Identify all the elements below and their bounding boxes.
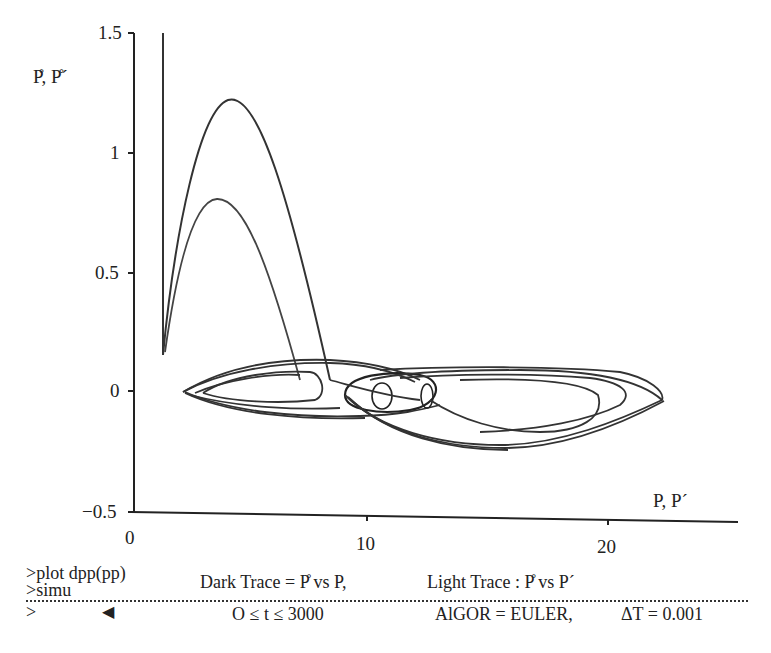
x-axis-label: P, P´	[653, 490, 688, 512]
dark-trace-legend: Dark Trace = P̊ vs P,	[200, 572, 347, 593]
x-tick-10: 10	[356, 533, 375, 555]
time-range: O ≤ t ≤ 3000	[232, 604, 324, 625]
console-prompt[interactable]: >	[26, 603, 36, 621]
arrow-left-icon[interactable]: ◀	[102, 603, 114, 621]
y-tick-0.5: 0.5	[95, 262, 119, 284]
dark-trace	[163, 33, 330, 380]
delta-t-label: ΔT = 0.001	[621, 604, 703, 625]
phase-plot	[0, 0, 771, 653]
algorithm-label: AlGOR = EULER,	[435, 604, 573, 625]
light-trace-legend: Light Trace : P̊ vs P´	[427, 572, 575, 593]
y-tick-1: 1	[110, 142, 120, 164]
y-tick-1.5: 1.5	[98, 22, 122, 44]
console-divider	[26, 600, 748, 602]
light-trace	[165, 199, 300, 380]
console-line-simu: >simu	[26, 581, 71, 599]
y-axis-label: P̊, P̊´	[33, 66, 68, 88]
y-tick-neg0.5: −0.5	[82, 501, 116, 523]
y-tick-0: 0	[110, 380, 120, 402]
x-tick-20: 20	[597, 536, 616, 558]
x-tick-0: 0	[125, 527, 135, 549]
x-axis	[131, 512, 738, 522]
